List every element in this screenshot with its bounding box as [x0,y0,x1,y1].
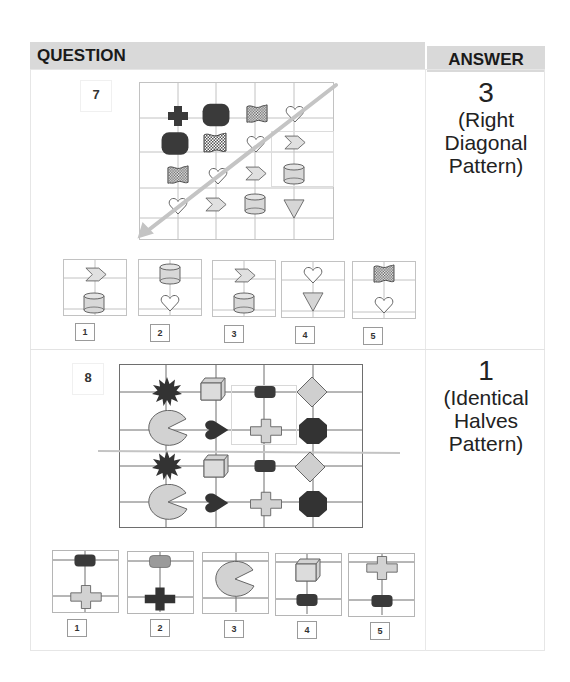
q8-option-3-label[interactable]: 3 [224,620,244,638]
q8-answer-line2: Halves [427,409,545,432]
q8-answer-line1: (Identical [427,386,545,409]
q8-option-2-label[interactable]: 2 [150,619,170,637]
q8-option-1-label[interactable]: 1 [67,619,87,637]
q8-option-5-label[interactable]: 5 [370,622,390,640]
q8-answer-number: 1 [427,356,545,386]
q8-option-4-label[interactable]: 4 [297,621,317,639]
q8-answer: 1 (Identical Halves Pattern) [427,356,545,455]
q8-answer-line3: Pattern) [427,432,545,455]
question-8-grid [0,0,570,682]
horizontal-cut-line [98,451,400,453]
